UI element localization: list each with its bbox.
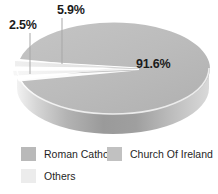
legend-item-others[interactable]: Others bbox=[21, 165, 76, 187]
legend-row: Roman Catholic Church Of Ireland bbox=[0, 143, 218, 165]
pie-graphic: 2.5% 5.9% 91.6% bbox=[0, 0, 218, 140]
legend-label-others: Others bbox=[44, 171, 76, 182]
legend-label-church-of-ireland: Church Of Ireland bbox=[130, 149, 213, 160]
legend-row: Others bbox=[0, 165, 218, 187]
legend-swatch-others bbox=[21, 169, 36, 183]
data-label-others: 2.5% bbox=[9, 18, 37, 32]
legend-swatch-roman-catholic bbox=[21, 147, 36, 161]
chart-legend: Roman Catholic Church Of Ireland Others bbox=[0, 141, 218, 194]
legend-item-church-of-ireland[interactable]: Church Of Ireland bbox=[107, 143, 213, 165]
data-label-roman-catholic: 91.6% bbox=[136, 57, 170, 71]
pie-chart: 2.5% 5.9% 91.6% Roman Catholic Church Of… bbox=[0, 0, 218, 194]
data-label-church-of-ireland: 5.9% bbox=[57, 3, 85, 17]
legend-swatch-church-of-ireland bbox=[107, 147, 122, 161]
legend-item-roman-catholic[interactable]: Roman Catholic bbox=[21, 143, 119, 165]
